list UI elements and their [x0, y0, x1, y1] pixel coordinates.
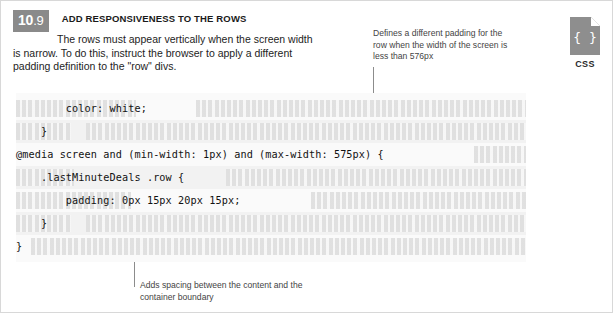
code-redacted-fill: [31, 238, 526, 255]
code-redacted-fill: [226, 169, 526, 186]
code-text: }: [16, 241, 22, 252]
code-text: padding: 0px 15px 20px 15px;: [16, 195, 240, 206]
code-text: .lastMinuteDeals .row {: [16, 172, 184, 183]
css-file-icon: { }: [570, 17, 600, 55]
callout-bottom-text: Adds spacing between the content and the…: [140, 280, 320, 303]
section-header: 10.9 ADD RESPONSIVENESS TO THE ROWS The …: [13, 10, 353, 74]
code-line: }: [16, 212, 526, 235]
callout-top-text: Defines a different padding for the row …: [373, 28, 513, 63]
code-text: }: [16, 126, 47, 137]
css-file-badge: { } CSS: [567, 17, 603, 69]
code-line: @media screen and (min-width: 1px) and (…: [16, 143, 526, 166]
page-root: 10.9 ADD RESPONSIVENESS TO THE ROWS The …: [0, 0, 613, 313]
code-text: }: [16, 218, 47, 229]
code-text: @media screen and (min-width: 1px) and (…: [16, 149, 384, 160]
code-redacted-fill: [86, 215, 526, 232]
code-text: color: white;: [16, 103, 147, 114]
code-line: padding: 0px 15px 20px 15px;: [16, 189, 526, 212]
section-number-major: 10: [18, 12, 33, 28]
code-redacted-fill: [311, 192, 526, 209]
css-file-label: CSS: [567, 59, 603, 69]
code-block[interactable]: color: white; }@media screen and (min-wi…: [16, 93, 526, 262]
code-redacted-fill: [196, 100, 526, 117]
intro-paragraph: The rows must appear vertically when the…: [13, 33, 313, 74]
page-title: ADD RESPONSIVENESS TO THE ROWS: [62, 13, 247, 25]
css-braces-glyph: { }: [573, 30, 596, 45]
section-header-row: 10.9 ADD RESPONSIVENESS TO THE ROWS: [13, 10, 353, 32]
code-line: .lastMinuteDeals .row {: [16, 166, 526, 189]
code-line: }: [16, 235, 526, 258]
section-number-minor: .9: [33, 13, 43, 28]
code-redacted-fill: [474, 146, 526, 163]
code-line: color: white;: [16, 97, 526, 120]
file-icon-shape: { }: [570, 17, 600, 55]
code-line: }: [16, 120, 526, 143]
section-number-badge: 10.9: [13, 10, 49, 32]
code-redacted-fill: [86, 123, 526, 140]
